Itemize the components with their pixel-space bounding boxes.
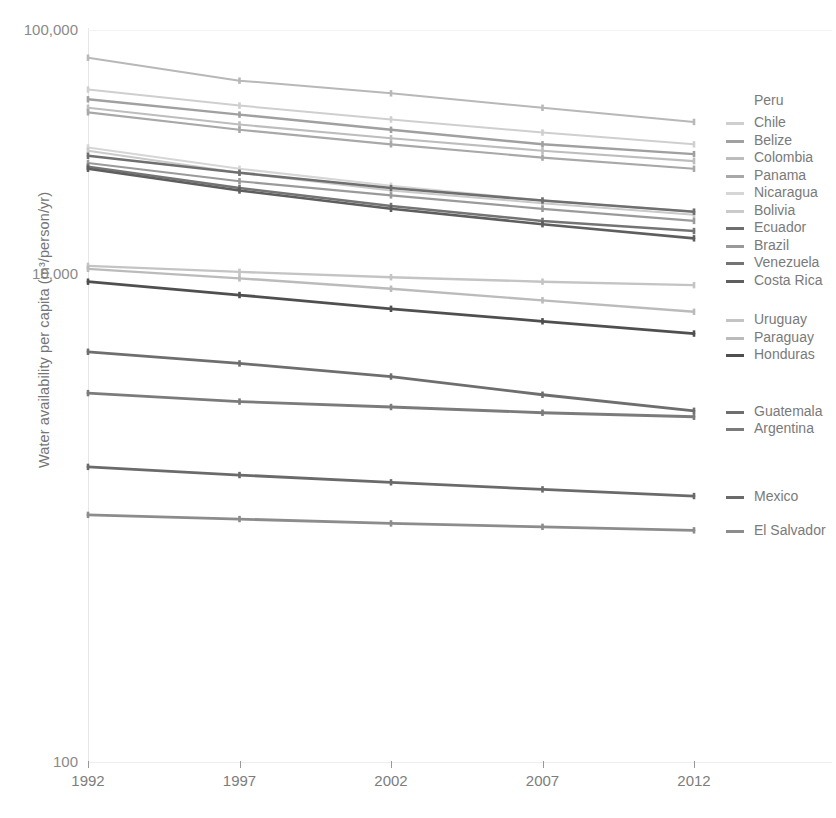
data-point-marker <box>390 90 393 96</box>
legend-label-nicaragua[interactable]: Nicaragua <box>754 185 818 199</box>
data-point-marker <box>541 141 544 147</box>
data-point-marker <box>238 111 241 117</box>
data-point-marker <box>693 209 696 215</box>
data-point-marker <box>541 105 544 111</box>
data-point-marker <box>87 390 90 396</box>
data-point-marker <box>541 486 544 492</box>
data-point-marker <box>87 512 90 518</box>
data-point-marker <box>693 330 696 336</box>
data-point-marker <box>541 297 544 303</box>
data-point-marker <box>693 228 696 234</box>
legend-swatch-nicaragua <box>726 192 744 195</box>
data-point-marker <box>238 187 241 193</box>
series-line <box>88 108 694 161</box>
data-point-marker <box>238 102 241 108</box>
legend-label-mexico[interactable]: Mexico <box>754 489 798 503</box>
data-point-marker <box>693 235 696 241</box>
data-point-marker <box>87 153 90 159</box>
legend-swatch-paraguay <box>726 337 744 340</box>
data-point-marker <box>541 129 544 135</box>
data-point-marker <box>87 166 90 172</box>
data-point-marker <box>390 306 393 312</box>
legend-swatch-colombia <box>726 157 744 160</box>
legend-swatch-brazil <box>726 245 744 248</box>
legend-swatch-ecuador <box>726 227 744 230</box>
data-point-marker <box>87 109 90 115</box>
data-point-marker <box>693 119 696 125</box>
data-point-marker <box>238 127 241 133</box>
data-point-marker <box>693 141 696 147</box>
legend-label-bolivia[interactable]: Bolivia <box>754 203 795 217</box>
data-point-marker <box>541 278 544 284</box>
data-point-marker <box>693 493 696 499</box>
data-point-marker <box>238 269 241 275</box>
series-line <box>88 167 694 231</box>
data-point-marker <box>87 96 90 102</box>
data-point-marker <box>693 282 696 288</box>
data-point-marker <box>238 275 241 281</box>
legend-swatch-honduras <box>726 354 744 357</box>
data-point-marker <box>390 286 393 292</box>
data-point-marker <box>693 408 696 414</box>
legend-label-peru[interactable]: Peru <box>754 93 784 107</box>
data-point-marker <box>693 414 696 420</box>
data-point-marker <box>541 148 544 154</box>
data-point-marker <box>390 206 393 212</box>
legend-swatch-argentina <box>726 428 744 431</box>
legend-label-ecuador[interactable]: Ecuador <box>754 220 806 234</box>
legend-label-costa-rica[interactable]: Costa Rica <box>754 273 822 287</box>
data-point-marker <box>238 292 241 298</box>
plot-area <box>0 0 836 818</box>
data-point-marker <box>541 206 544 212</box>
data-point-marker <box>87 349 90 355</box>
data-point-marker <box>87 464 90 470</box>
data-point-marker <box>541 410 544 416</box>
data-point-marker <box>390 135 393 141</box>
legend-label-brazil[interactable]: Brazil <box>754 238 789 252</box>
series-peru <box>87 54 696 125</box>
legend-label-guatemala[interactable]: Guatemala <box>754 404 822 418</box>
series-line <box>88 58 694 122</box>
data-point-marker <box>693 151 696 157</box>
legend-label-el-salvador[interactable]: El Salvador <box>754 523 826 537</box>
data-point-marker <box>693 166 696 172</box>
data-point-marker <box>390 274 393 280</box>
data-point-marker <box>390 373 393 379</box>
legend-label-belize[interactable]: Belize <box>754 133 792 147</box>
data-point-marker <box>87 54 90 60</box>
data-point-marker <box>238 77 241 83</box>
data-point-marker <box>238 360 241 366</box>
legend-swatch-belize <box>726 140 744 143</box>
legend-swatch-costa-rica <box>726 280 744 283</box>
data-point-marker <box>541 318 544 324</box>
legend-swatch-guatemala <box>726 411 744 414</box>
legend-label-paraguay[interactable]: Paraguay <box>754 330 814 344</box>
legend-label-colombia[interactable]: Colombia <box>754 150 813 164</box>
data-point-marker <box>390 404 393 410</box>
legend-label-honduras[interactable]: Honduras <box>754 347 815 361</box>
legend-label-panama[interactable]: Panama <box>754 168 806 182</box>
legend-label-argentina[interactable]: Argentina <box>754 421 814 435</box>
series-belize <box>87 96 696 157</box>
data-point-marker <box>238 170 241 176</box>
data-point-marker <box>238 398 241 404</box>
legend-swatch-uruguay <box>726 319 744 322</box>
data-point-marker <box>390 127 393 133</box>
data-point-marker <box>693 527 696 533</box>
data-point-marker <box>87 266 90 272</box>
data-point-marker <box>390 479 393 485</box>
series-mexico <box>87 464 696 500</box>
legend-label-uruguay[interactable]: Uruguay <box>754 312 807 326</box>
legend-label-venezuela[interactable]: Venezuela <box>754 255 819 269</box>
data-point-marker <box>541 154 544 160</box>
data-point-marker <box>541 221 544 227</box>
data-point-marker <box>693 309 696 315</box>
data-point-marker <box>541 524 544 530</box>
data-point-marker <box>693 158 696 164</box>
legend-swatch-venezuela <box>726 262 744 265</box>
data-point-marker <box>238 472 241 478</box>
legend-label-chile[interactable]: Chile <box>754 115 786 129</box>
data-point-marker <box>693 218 696 224</box>
legend-swatch-mexico <box>726 496 744 499</box>
data-point-marker <box>87 278 90 284</box>
